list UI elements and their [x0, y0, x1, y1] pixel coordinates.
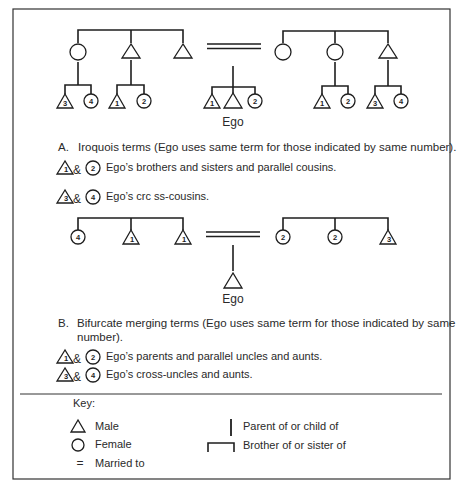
term-number: 2: [253, 97, 257, 106]
term-number: 2: [333, 233, 337, 242]
ampersand: &: [73, 352, 81, 366]
term-number: 2: [91, 353, 95, 362]
term-number: 3: [64, 372, 68, 381]
legend-text: Ego’s parents and parallel uncles and au…: [106, 350, 322, 362]
legend-row: 1 & 2 Ego’s parents and parallel uncles …: [57, 350, 322, 366]
term-number: 1: [130, 235, 134, 244]
kinship-diagram-figure: 3 4 1 2 1 2 Ego 1 2 3 4 A. Ir: [0, 0, 461, 498]
female-icon: [70, 44, 86, 60]
term-number: 1: [64, 354, 68, 363]
term-number: 1: [320, 99, 324, 108]
descent-line: [322, 62, 348, 94]
legend-row: 3 & 4 Ego’s cross-uncles and aunts.: [57, 368, 253, 384]
legend-row: 3 & 4 Ego’s crc ss-cousins.: [57, 190, 209, 206]
sibling-bracket: [283, 31, 388, 43]
male-icon: [71, 420, 85, 432]
term-number: 2: [281, 233, 285, 242]
descent-line: [375, 60, 401, 94]
term-number: 2: [142, 97, 146, 106]
sibling-bracket: [78, 218, 183, 230]
married-to-icon: =: [76, 456, 83, 470]
legend-text: Ego’s brothers and sisters and parallel …: [106, 161, 336, 173]
term-number: 1: [115, 99, 119, 108]
term-number: 1: [210, 99, 214, 108]
male-icon: [379, 44, 397, 58]
key-section: Key: Male Female = Married to Parent of …: [71, 397, 347, 470]
male-icon: [122, 44, 140, 58]
section-a-heading: Iroquois terms (Ego uses same term for t…: [78, 141, 456, 153]
female-icon: [327, 44, 343, 60]
ego-male-icon: [224, 93, 242, 108]
key-married-label: Married to: [95, 457, 145, 469]
term-number: 2: [346, 97, 350, 106]
iroquois-diagram: 3 4 1 2 1 2 Ego 1 2 3 4: [57, 30, 408, 129]
ego-label: Ego: [222, 115, 244, 129]
term-number: 3: [64, 194, 68, 203]
bifurcate-merging-diagram: 4 1 1 Ego 2 2 3: [71, 218, 396, 306]
key-parent-label: Parent of or child of: [243, 420, 339, 432]
sibling-bracket-icon: [208, 443, 234, 452]
sibling-bracket: [78, 30, 183, 43]
key-female-label: Female: [95, 438, 132, 450]
ampersand: &: [73, 192, 81, 206]
married-to-icon: [206, 232, 260, 237]
term-number: 1: [64, 165, 68, 174]
descent-line: [117, 60, 144, 94]
section-b-letter: B.: [58, 317, 69, 329]
key-sibling-label: Brother of or sister of: [243, 439, 347, 451]
ampersand: &: [73, 370, 81, 384]
term-number: 1: [182, 235, 186, 244]
female-icon: [72, 439, 84, 451]
term-number: 3: [63, 99, 67, 108]
term-number: 2: [91, 164, 95, 173]
section-a-letter: A.: [58, 141, 69, 153]
ego-male-icon: [224, 273, 242, 288]
sibling-bracket: [283, 218, 388, 230]
descent-line: [212, 66, 255, 94]
key-male-label: Male: [95, 420, 119, 432]
key-title: Key:: [73, 397, 95, 409]
section-b-heading-line2: number).: [77, 331, 123, 343]
legend-text: Ego’s crc ss-cousins.: [106, 190, 209, 202]
term-number: 3: [373, 99, 377, 108]
male-icon: [174, 44, 192, 58]
legend-text: Ego’s cross-uncles and aunts.: [106, 368, 253, 380]
section-b-heading-line1: Bifurcate merging terms (Ego uses same t…: [77, 317, 455, 329]
descent-line: [65, 62, 91, 94]
ego-label: Ego: [222, 292, 244, 306]
married-to-icon: [207, 44, 261, 49]
female-icon: [275, 44, 291, 60]
ampersand: &: [73, 163, 81, 177]
legend-row: 1 & 2 Ego’s brothers and sisters and par…: [57, 161, 336, 177]
term-number: 3: [387, 235, 391, 244]
